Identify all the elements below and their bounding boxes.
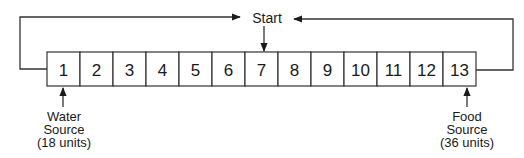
water-source-label-line3: (18 units) xyxy=(37,135,91,150)
cell-6: 6 xyxy=(212,52,245,86)
cell-number: 13 xyxy=(450,61,469,80)
cell-12: 12 xyxy=(410,52,443,86)
foraging-track-diagram: Start 12345678910111213 Water Source (18… xyxy=(0,0,524,158)
start-label: Start xyxy=(252,10,282,26)
cell-number: 1 xyxy=(59,61,68,80)
cell-number: 6 xyxy=(224,61,233,80)
cell-11: 11 xyxy=(377,52,410,86)
cell-13: 13 xyxy=(443,52,476,86)
cell-track: 12345678910111213 xyxy=(47,52,476,86)
cell-number: 3 xyxy=(125,61,134,80)
cell-9: 9 xyxy=(311,52,344,86)
cell-number: 8 xyxy=(290,61,299,80)
cell-number: 4 xyxy=(158,61,167,80)
cell-3: 3 xyxy=(113,52,146,86)
cell-1: 1 xyxy=(47,52,80,86)
cell-10: 10 xyxy=(344,52,377,86)
cell-number: 2 xyxy=(92,61,101,80)
cell-number: 5 xyxy=(191,61,200,80)
cell-number: 11 xyxy=(385,61,403,80)
cell-number: 9 xyxy=(323,61,332,80)
cell-4: 4 xyxy=(146,52,179,86)
food-source-label-line3: (36 units) xyxy=(440,135,494,150)
cell-7: 7 xyxy=(245,52,278,86)
cell-number: 12 xyxy=(417,61,436,80)
cell-5: 5 xyxy=(179,52,212,86)
cell-number: 7 xyxy=(257,61,266,80)
cell-8: 8 xyxy=(278,52,311,86)
cell-2: 2 xyxy=(80,52,113,86)
cell-number: 10 xyxy=(351,61,370,80)
